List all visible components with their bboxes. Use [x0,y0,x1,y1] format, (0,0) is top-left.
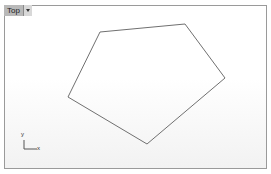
y-axis-label: y [21,131,24,137]
viewport-title: Top [4,5,23,16]
pentagon-shape[interactable] [68,24,225,144]
chevron-down-icon[interactable] [23,5,32,16]
x-axis-label: x [37,145,40,151]
viewport-tab[interactable]: Top [4,5,32,16]
drawing-canvas[interactable] [0,0,271,174]
axis-gizmo-icon [24,140,37,149]
